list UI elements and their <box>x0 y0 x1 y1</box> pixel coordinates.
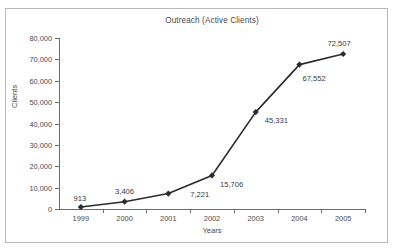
x-tick-label: 2002 <box>204 214 220 223</box>
x-tick-label: 2000 <box>116 214 132 223</box>
y-tick-label: 20,000 <box>29 162 52 171</box>
y-tick-label: 30,000 <box>29 140 52 149</box>
y-tick-label: 40,000 <box>29 119 52 128</box>
x-tick-label: 2003 <box>247 214 263 223</box>
y-tick-label: 10,000 <box>29 183 52 192</box>
data-point-label: 15,706 <box>220 180 243 189</box>
data-point-label: 913 <box>74 194 87 203</box>
y-tick-label: 70,000 <box>29 55 52 64</box>
y-tick-label: 0 <box>48 205 52 214</box>
y-axis-title: Clients <box>10 85 19 108</box>
data-point-label: 67,552 <box>302 74 325 83</box>
data-point-marker <box>165 190 171 196</box>
chart-title: Outreach (Active Clients) <box>59 16 365 25</box>
data-point-label: 7,221 <box>190 190 209 199</box>
data-point-label: 72,507 <box>328 39 351 48</box>
data-point-marker <box>121 199 127 205</box>
chart-figure: Outreach (Active Clients) Clients Years … <box>0 0 396 252</box>
x-tick-label: 2004 <box>291 214 307 223</box>
data-point-marker <box>78 204 84 210</box>
x-tick-label: 2001 <box>160 214 176 223</box>
series-line-outreach <box>59 38 365 210</box>
x-axis-title: Years <box>59 226 365 235</box>
x-tick-label: 2005 <box>335 214 351 223</box>
y-tick-label: 60,000 <box>29 76 52 85</box>
data-point-marker <box>340 51 346 57</box>
y-tick-label: 80,000 <box>29 34 52 43</box>
data-point-label: 45,331 <box>265 116 288 125</box>
data-point-label: 3,406 <box>115 187 134 196</box>
x-tick <box>365 209 366 213</box>
x-tick-label: 1999 <box>73 214 89 223</box>
plot-area: 010,00020,00030,00040,00050,00060,00070,… <box>59 38 365 209</box>
y-tick-label: 50,000 <box>29 98 52 107</box>
